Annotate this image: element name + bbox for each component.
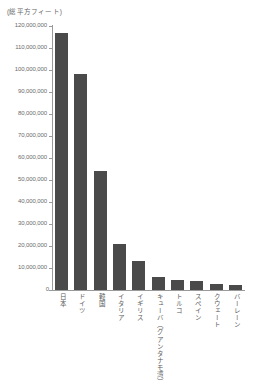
bar — [94, 171, 107, 290]
bar-slot — [206, 26, 225, 290]
bar-slot — [52, 26, 71, 290]
x-category-label-text: ドイツ — [78, 293, 85, 314]
y-tick-label: 30,000,000 — [18, 220, 47, 226]
x-category-label-text: 韓国 — [97, 293, 104, 307]
x-axis-line — [52, 290, 245, 291]
y-tick-label: 110,000,000 — [15, 44, 47, 50]
x-category-label-text: トルコ — [174, 293, 181, 314]
bar-slot — [168, 26, 187, 290]
x-category-label-text: イタリア — [116, 293, 123, 321]
x-category-label-text: イギリス — [135, 293, 142, 321]
bar-series — [52, 26, 245, 290]
bar-slot — [149, 26, 168, 290]
x-category-label: スペイン — [187, 293, 206, 321]
y-tick-label: 60,000,000 — [18, 154, 47, 160]
y-tick-label: 70,000,000 — [18, 132, 47, 138]
y-tick-label: 10,000,000 — [18, 264, 47, 270]
x-axis-category-labels: 日本ドイツ韓国イタリアイギリスキューバ（グアンタナモ湾）トルコスペインクウェート… — [52, 293, 245, 360]
bar-slot — [71, 26, 90, 290]
x-category-label-text: スペイン — [193, 293, 200, 321]
bar — [210, 284, 223, 290]
x-category-label: 韓国 — [91, 293, 110, 307]
bar — [152, 277, 165, 290]
y-tick-label: 50,000,000 — [18, 176, 47, 182]
x-category-label: キューバ（グアンタナモ湾） — [149, 293, 168, 384]
bar-slot — [91, 26, 110, 290]
x-category-label: ドイツ — [71, 293, 90, 314]
x-category-label: イタリア — [110, 293, 129, 321]
bar-slot — [129, 26, 148, 290]
bar-slot — [226, 26, 245, 290]
x-category-label: バーレーン — [226, 293, 245, 329]
x-category-label-text: キューバ（グアンタナモ湾） — [155, 293, 162, 384]
y-tick-label: 40,000,000 — [18, 198, 47, 204]
bar-slot — [110, 26, 129, 290]
bar — [190, 281, 203, 290]
bar — [229, 285, 242, 290]
x-category-label-text: クウェート — [213, 293, 220, 329]
y-tick-label: 100,000,000 — [15, 66, 47, 72]
y-tick-label: 80,000,000 — [18, 110, 47, 116]
x-category-label: トルコ — [168, 293, 187, 314]
bar-slot — [187, 26, 206, 290]
x-category-label: イギリス — [129, 293, 148, 321]
bar — [74, 74, 87, 290]
x-category-label: クウェート — [206, 293, 225, 329]
x-category-label-text: 日本 — [58, 293, 65, 307]
y-tick-label: 120,000,000 — [15, 22, 47, 28]
y-tick-label: 0 — [46, 286, 49, 292]
bar — [171, 280, 184, 290]
y-tick-label: 90,000,000 — [18, 88, 47, 94]
bar — [132, 261, 145, 290]
bar — [55, 33, 68, 290]
x-category-label: 日本 — [52, 293, 71, 307]
x-category-label-text: バーレーン — [232, 293, 239, 329]
bar — [113, 244, 126, 290]
y-tick-label: 20,000,000 — [18, 242, 47, 248]
